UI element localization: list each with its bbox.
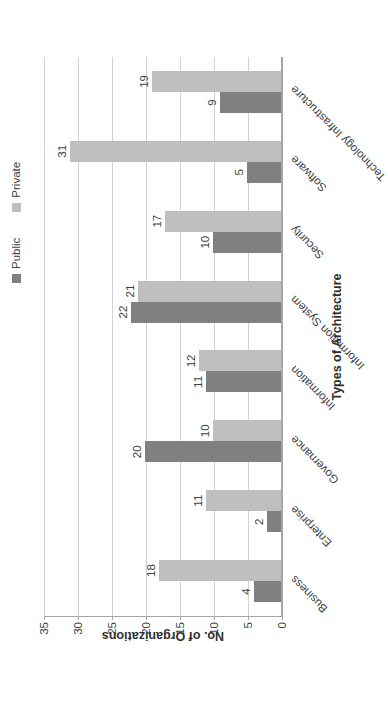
bar-public: 10 (213, 232, 281, 253)
bar-public: 11 (206, 371, 281, 392)
bar-value-label: 2 (253, 518, 265, 524)
bar-value-label: 21 (124, 285, 136, 298)
bar-value-label: 5 (233, 169, 245, 175)
bar-value-label: 9 (206, 99, 218, 105)
bar-group: 2010 (44, 406, 281, 476)
bar-group: 211 (44, 476, 281, 546)
legend-entry-private: Private (10, 162, 22, 212)
bar-public: 9 (220, 92, 281, 113)
bar-value-label: 17 (151, 215, 163, 228)
bar-groups: 4182112010111222211017531919 (44, 57, 281, 616)
bar-public: 20 (145, 441, 281, 462)
chart-legend: Public Private (10, 162, 22, 283)
bar-private: 19 (152, 71, 281, 92)
bar-private: 11 (206, 490, 281, 511)
bar-value-label: 12 (185, 355, 197, 368)
bar-private: 17 (165, 211, 281, 232)
bar-value-label: 11 (192, 495, 204, 507)
plot-frame: 05101520253035 4182112010111222211017531… (44, 57, 282, 617)
bar-public: 2 (267, 511, 281, 532)
x-axis-title: Types of Architecture (330, 57, 344, 617)
bar-private: 12 (199, 350, 281, 371)
category-label: Business (288, 574, 329, 615)
bar-private: 10 (213, 420, 281, 441)
bar-value-label: 10 (199, 236, 211, 249)
gridline (282, 57, 283, 616)
category-label: Security (288, 224, 326, 262)
bar-private: 21 (138, 281, 281, 302)
bar-value-label: 19 (138, 75, 150, 88)
category-label: Software (288, 154, 329, 195)
category-label: Enterprise (288, 504, 334, 550)
bar-group: 1112 (44, 337, 281, 407)
bar-group: 1017 (44, 197, 281, 267)
x-axis-title-text: Types of Architecture (330, 273, 344, 400)
bar-value-label: 22 (117, 306, 129, 319)
bar-value-label: 10 (199, 424, 211, 437)
y-axis-title: No. of Organizations (44, 575, 282, 697)
bar-public: 22 (131, 302, 281, 323)
bar-group: 2221 (44, 267, 281, 337)
bar-group: 531 (44, 127, 281, 197)
bar-group: 919 (44, 57, 281, 127)
legend-label-private: Private (10, 162, 22, 198)
plot-area: 05101520253035 4182112010111222211017531… (44, 57, 282, 617)
bar-value-label: 20 (131, 445, 143, 458)
legend-swatch-public-icon (12, 274, 21, 283)
bar-private: 31 (70, 141, 281, 162)
bar-public: 5 (247, 162, 281, 183)
legend-entry-public: Public (10, 238, 22, 283)
y-axis-title-text: No. of Organizations (102, 629, 224, 643)
legend-label-public: Public (10, 238, 22, 269)
y-axis-tick-mark (282, 616, 283, 620)
legend-swatch-private-icon (12, 203, 21, 212)
bar-value-label: 11 (192, 376, 204, 388)
bar-value-label: 31 (56, 145, 68, 158)
